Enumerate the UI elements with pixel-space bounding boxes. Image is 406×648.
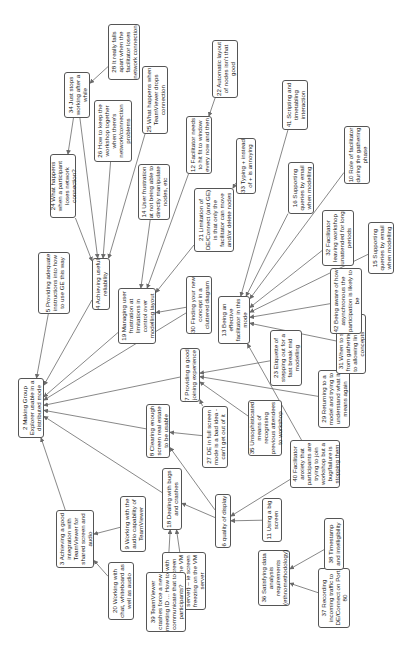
edge-5-to-2 (37, 314, 49, 378)
edge-18-to-2 (44, 416, 162, 492)
concept-node-label: 23 Etiquette of stepping out for a fast … (272, 331, 300, 385)
concept-node-label: 13 Being an effective facilitator in thi… (220, 297, 248, 343)
concept-node-label: 41 Scripting and timetabling interaction (285, 81, 306, 129)
edge-30-to-19 (156, 307, 186, 312)
concept-node-33: 33 Typing + instead of + is annoying (236, 138, 256, 194)
concept-node-label: 2 Making Group Explorer usable in a dist… (21, 379, 42, 437)
edge-7-to-2 (44, 377, 180, 405)
concept-node-20: 20 Working with chat, whiteboard as well… (108, 562, 134, 620)
concept-node-18: 18 Dealing with bugs and crashes (162, 468, 182, 530)
edge-28-to-34 (90, 67, 108, 83)
concept-node-30: 30 Finding your new concept in a clutter… (186, 276, 212, 334)
concept-node-27: 27 DE in full screen mode is a bad idea … (202, 406, 228, 468)
concept-node-label: 26 How to keep the workshop together whe… (96, 101, 131, 161)
concept-node-label: 5 Providing adequate instructions into h… (44, 253, 65, 313)
edge-11-to-6 (231, 520, 262, 521)
concept-node-8: 8 Clearing enough screen real estate to … (146, 404, 170, 458)
edge-27-to-8 (170, 432, 202, 435)
edge-42-to-13 (250, 304, 330, 318)
concept-node-label: 19 Managing user frustration at limitati… (120, 289, 155, 343)
concept-node-10: 10 Role of facilitator during the gather… (344, 126, 370, 184)
concept-node-29: 29 Returning to a model and trying to un… (318, 370, 350, 428)
concept-node-label: 29 Returning to a model and trying to un… (320, 371, 348, 427)
concept-node-label: 14 User frustration at not being able to… (140, 165, 168, 219)
concept-node-label: 35 Unsophisticated means of recognising … (248, 401, 283, 455)
concept-node-label: 32 Facilitator leaving workshop unattend… (324, 211, 352, 265)
concept-node-label: 37 Recording incoming traffic to DE/Conn… (320, 569, 348, 627)
concept-node-4: 4 Achieving useful reliability (92, 258, 110, 310)
concept-node-24: 24 What happens when a participant loses… (50, 154, 76, 218)
edge-37-to-36 (290, 583, 318, 592)
concept-node-15: 15 Supporting queries by email when mode… (368, 222, 394, 274)
concept-node-5: 5 Providing adequate instructions into h… (38, 252, 70, 314)
concept-node-label: 18 Dealing with bugs and crashes (165, 469, 179, 529)
concept-node-9: 9 Working with the audio capability of T… (120, 496, 146, 552)
concept-node-label: 10 Role of facilitator during the gather… (347, 127, 368, 183)
concept-node-22: 22 Automatic layout of nodes isn't that … (212, 40, 238, 98)
concept-node-11: 11 Using a big screen (262, 498, 282, 542)
edge-26-to-4 (103, 162, 111, 258)
concept-node-label: 33 Typing + instead of + is annoying (239, 139, 253, 193)
concept-node-39: 39 TeamViewer crashes force a new meetin… (146, 572, 186, 632)
concept-node-label: 30 Finding your new concept in a clutter… (189, 277, 210, 333)
edge-23-to-7 (200, 361, 270, 373)
concept-node-2: 2 Making Group Explorer usable in a dist… (18, 378, 44, 438)
edge-30-to-2 (44, 313, 186, 400)
edge-34-to-24 (68, 118, 74, 154)
edge-32-to-13 (250, 251, 322, 308)
concept-node-label: 20 Working with chat, whiteboard as well… (111, 563, 132, 619)
concept-node-7: 7 Providing a good joining experience (180, 348, 200, 402)
concept-node-41: 41 Scripting and timetabling interaction (282, 80, 308, 130)
concept-node-label: 11 Using a big screen (265, 499, 279, 541)
concept-node-21: 21 Limitation of DE/Connect (and GE) is … (194, 188, 234, 252)
concept-node-label: 15 Supporting queries by email when mode… (371, 223, 392, 273)
concept-node-38: 38 Timestamp and intelligibility (324, 518, 344, 570)
concept-node-23: 23 Etiquette of stepping out for a fast … (270, 330, 302, 386)
concept-node-label: 36 Satisfying data analysis requirements… (260, 551, 288, 605)
concept-node-label: 34 Just stops working after a while (67, 73, 88, 117)
edge-27-to-7 (200, 400, 203, 406)
concept-node-label: 24 What happens when a participant loses… (49, 155, 77, 217)
edge-14-to-19 (141, 220, 150, 288)
concept-node-label: 25 What happens when TeamViewer drops co… (145, 67, 166, 133)
edge-3-to-2 (41, 438, 65, 510)
concept-node-12: 12 Facilitator needs to hit fit to windo… (186, 116, 212, 174)
concept-node-19: 19 Managing user frustration at limitati… (118, 288, 156, 344)
concept-node-label: 6 quality of display (220, 495, 227, 547)
concept-node-label: 28 It really falls apart when the facili… (110, 25, 138, 79)
concept-node-label: 4 Achieving useful reliability (94, 259, 108, 309)
concept-node-36: 36 Satisfying data analysis requirements… (258, 550, 290, 606)
concept-node-label: 39 TeamViewer crashes force a new meetin… (149, 573, 184, 631)
concept-node-42: 42 Being aware of how asynchronous the p… (330, 268, 362, 334)
concept-node-40: 40 Facilitator anxiety that participants… (290, 440, 340, 488)
concept-node-37: 37 Recording incoming traffic to DE/Conn… (318, 568, 350, 628)
concept-node-3: 3 Achieving a good integration with Team… (56, 510, 94, 568)
concept-node-label: 3 Achieving a good integration with Team… (58, 511, 93, 567)
edge-22-to-12 (209, 98, 215, 116)
concept-node-label: 7 Providing a good joining experience (183, 349, 197, 401)
concept-node-label: 9 Working with the audio capability of T… (123, 497, 144, 551)
edge-24-to-4 (75, 218, 92, 261)
edge-20-to-3 (94, 560, 108, 576)
concept-node-label: 8 Clearing enough screen real estate to … (148, 405, 169, 457)
concept-node-26: 26 How to keep the workshop together whe… (94, 100, 132, 162)
concept-node-label: 42 Being aware of how asynchronous the p… (332, 269, 360, 333)
concept-node-label: 21 Limitation of DE/Connect (and GE) is … (197, 189, 232, 251)
concept-node-28: 28 It really falls apart when the facili… (108, 24, 140, 80)
concept-node-32: 32 Facilitator leaving workshop unattend… (322, 210, 354, 266)
concept-node-35: 35 Unsophisticated means of recognising … (248, 400, 282, 456)
concept-node-label: 16 Supporting queries by email when mode… (291, 163, 312, 213)
concept-node-label: 38 Timestamp and intelligibility (327, 519, 341, 569)
concept-map-canvas: 2 Making Group Explorer usable in a dist… (0, 0, 406, 648)
edge-6-to-18 (182, 503, 215, 517)
concept-node-label: 22 Automatic layout of nodes isn't that … (215, 41, 236, 97)
concept-node-label: 12 Facilitator needs to hit fit to windo… (189, 117, 210, 173)
concept-node-34: 34 Just stops working after a while (64, 72, 90, 118)
concept-node-25: 25 What happens when TeamViewer drops co… (142, 66, 168, 134)
concept-node-14: 14 User frustration at not being able to… (138, 164, 170, 220)
edge-9-to-3 (94, 527, 120, 534)
concept-node-16: 16 Supporting queries by email when mode… (288, 162, 314, 214)
edge-17-to-18 (177, 530, 180, 552)
concept-node-6: 6 quality of display (215, 494, 231, 548)
edge-38-to-36 (290, 550, 324, 569)
